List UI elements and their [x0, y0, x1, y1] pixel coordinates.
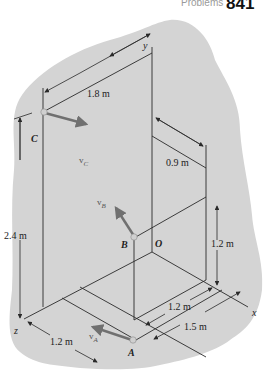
point-b [131, 234, 137, 240]
z-axis-label: z [13, 325, 18, 336]
y-axis-label: y [142, 40, 148, 51]
point-b-label: B [120, 239, 128, 250]
point-c [41, 109, 47, 115]
x-axis-label: x [251, 307, 257, 318]
dimension-1-8m: 1.8 m [87, 88, 110, 99]
background-blob [10, 20, 263, 369]
dimension-0-9m: 0.9 m [166, 157, 189, 168]
origin-label: O [155, 238, 162, 249]
point-a-label: A [127, 347, 135, 358]
dimension-1-2m-right: 1.2 m [211, 238, 234, 249]
point-c-label: C [31, 133, 38, 144]
dimension-2-4m: 2.4 m [4, 230, 27, 241]
dimension-1-2m-floor: 1.2 m [168, 301, 191, 312]
dimension-1-5m: 1.5 m [184, 321, 207, 332]
point-a [130, 337, 136, 343]
mechanics-diagram: y x z O C B A vC vB vA 1.8 m 0.9 m 2.4 m… [0, 0, 264, 372]
dimension-1-2m-z: 1.2 m [50, 336, 73, 347]
